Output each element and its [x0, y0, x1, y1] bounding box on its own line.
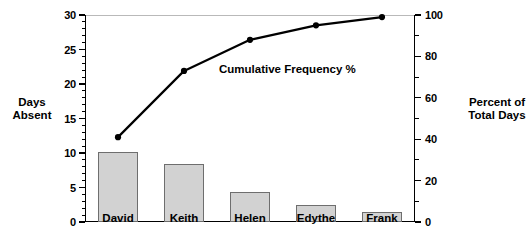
tick-label: 0	[425, 217, 431, 228]
tick-major	[415, 180, 421, 181]
tick-minor	[415, 159, 419, 160]
tick-minor	[415, 77, 419, 78]
pareto-chart: Days Absent Percent of Total Days Cumula…	[0, 0, 529, 250]
tick-major	[415, 56, 421, 57]
tick-minor	[415, 201, 419, 202]
tick-label: 25	[64, 44, 76, 55]
tick-label: 60	[425, 92, 437, 103]
x-axis-label-edythe: Edythe	[297, 213, 335, 225]
cumulative-frequency-line	[85, 15, 415, 222]
tick-major	[415, 221, 421, 222]
y-axis-left-title: Days Absent	[3, 96, 61, 122]
tick-label: 10	[64, 148, 76, 159]
tick-label: 0	[70, 217, 76, 228]
cumulative-line-path	[118, 17, 382, 137]
tick-minor	[415, 35, 419, 36]
x-axis-label-keith: Keith	[170, 213, 199, 225]
line-marker-frank	[379, 14, 385, 20]
tick-label: 100	[425, 10, 443, 21]
line-marker-edythe	[313, 22, 319, 28]
tick-label: 40	[425, 134, 437, 145]
y-axis-right-title: Percent of Total Days	[466, 96, 528, 122]
tick-major	[415, 139, 421, 140]
tick-label: 5	[70, 182, 76, 193]
line-marker-keith	[181, 68, 187, 74]
x-axis-label-helen: Helen	[234, 213, 265, 225]
tick-label: 20	[64, 79, 76, 90]
tick-label: 20	[425, 175, 437, 186]
tick-label: 30	[64, 10, 76, 21]
plot-area: 051015202530 020406080100	[85, 15, 415, 222]
tick-label: 15	[64, 113, 76, 124]
tick-major	[415, 97, 421, 98]
x-axis-label-david: David	[102, 213, 133, 225]
line-marker-helen	[247, 37, 253, 43]
x-axis-label-frank: Frank	[366, 213, 397, 225]
tick-major	[415, 14, 421, 15]
line-marker-david	[115, 134, 121, 140]
tick-minor	[415, 118, 419, 119]
tick-label: 80	[425, 51, 437, 62]
